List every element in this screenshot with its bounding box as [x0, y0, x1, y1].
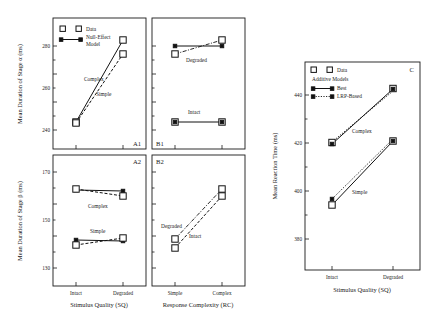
panel-b1-model-degraded-simple — [173, 44, 177, 48]
panel-a2-point-complex-intact — [73, 186, 79, 192]
panel-b2-label-intact: Intact — [189, 233, 202, 239]
panel-b1-degraded-data-line — [175, 40, 222, 54]
panel-a2-xtick-0: Intact — [70, 290, 82, 296]
panel-a2-model-complex-degraded — [121, 189, 125, 193]
panel-c-lrp-simple-intact — [330, 197, 334, 201]
panel-a1-legend: Data Null-Effect Model — [59, 26, 111, 47]
panel-a1-id: A1 — [133, 140, 141, 147]
panel-b1-frame — [152, 18, 245, 149]
panel-a1-label-simple: Simple — [96, 91, 112, 97]
panel-c-legend: Data Additive Models Best LRP-Based — [311, 67, 362, 99]
panel-b2-frame — [152, 155, 245, 286]
panel-c-legend-data-label: Data — [337, 67, 348, 73]
panel-b1-y-axis — [152, 46, 156, 130]
panel-c-legend-lrp-square-right-icon — [330, 95, 334, 99]
panel-b2-degraded-line — [175, 189, 222, 239]
panel-c-point-simple-intact — [329, 202, 335, 208]
panel-b2-y-axis — [152, 172, 156, 268]
panel-b1: Degraded Intact B1 — [152, 18, 245, 149]
panel-a2-simple-data-line — [76, 238, 123, 245]
panel-a2-xlabel: Stimulus Quality (SQ) — [70, 301, 128, 309]
panel-a1-legend-model-line1: Null-Effect — [86, 34, 111, 40]
panel-a2-point-complex-degraded — [120, 193, 126, 199]
panel-a1-point-simple-degraded — [120, 51, 126, 57]
panel-a1-legend-model-line2: Model — [86, 41, 101, 47]
panel-a2-point-simple-degraded — [120, 235, 126, 241]
panel-c-legend-open-square2-icon — [327, 67, 332, 72]
panel-a1-legend-data-label: Data — [86, 26, 97, 32]
panel-a1-simple-line — [76, 54, 123, 123]
panel-c-ylabel: Mean Reaction Time (ms) — [271, 133, 279, 200]
panel-a1-point-simple-intact — [73, 120, 79, 126]
panel-b1-model-intact-complex — [220, 120, 224, 124]
panel-a2-ytick-2: 130 — [42, 265, 50, 271]
panel-c-legend-group-label: Additive Models — [312, 76, 348, 82]
panel-c-best-simple-degraded — [391, 139, 395, 143]
panel-c-legend-lrp-square-left-icon — [311, 95, 315, 99]
panel-c-best-complex-degraded — [391, 87, 395, 91]
panel-c-xtick-1: Degraded — [383, 274, 404, 280]
legend-open-square2-icon — [76, 26, 81, 31]
panel-a2-ytick-0: 170 — [42, 169, 50, 175]
panel-b1-x-axis — [175, 145, 222, 149]
panel-c-legend-best-square-right-icon — [330, 87, 334, 91]
panel-a2-ytick-1: 150 — [42, 217, 50, 223]
panel-b1-point-degraded-complex — [219, 37, 225, 43]
panel-c-best-complex-intact — [330, 142, 334, 146]
panel-c-frame — [305, 62, 420, 270]
panel-a1-label-complex: Complex — [84, 76, 104, 82]
panel-c-id: C — [410, 66, 415, 73]
panel-a1-ytick-2: 240 — [42, 127, 50, 133]
panel-c-legend-best-square-left-icon — [311, 87, 315, 91]
panel-a2: 170 150 130 Intact Degraded Stimulus Qua… — [16, 155, 146, 309]
panel-a2-xtick-1: Degraded — [113, 290, 134, 296]
panel-b1-model-degraded-complex — [220, 44, 224, 48]
panel-c-ytick-1: 420 — [294, 140, 302, 146]
panel-a1-ytick-0: 280 — [42, 43, 50, 49]
panel-b2-point-degraded-complex — [219, 186, 225, 192]
panel-c-legend-lrp-label: LRP-Based — [337, 93, 362, 99]
panel-c-xtick-0: Intact — [326, 274, 338, 280]
panel-c-label-simple: Simple — [352, 189, 368, 195]
panel-b1-model-intact-simple — [173, 120, 177, 124]
panel-b2-point-intact-simple — [172, 245, 178, 251]
panel-b2-xlabel: Response Complexity (RC) — [163, 301, 234, 309]
panel-c-xlabel: Stimulus Quality (SQ) — [333, 286, 391, 294]
panel-c-ytick-3: 380 — [294, 236, 302, 242]
panel-b1-id: B1 — [156, 140, 164, 147]
panel-a1-ytick-1: 260 — [42, 85, 50, 91]
panel-a2-frame — [53, 155, 146, 286]
panel-a2-label-simple: Simple — [90, 228, 106, 234]
panel-b2-xtick-1: Complex — [212, 290, 231, 296]
panel-c-y-axis: 440 420 400 380 — [294, 92, 309, 242]
panel-a2-simple-model-line — [76, 240, 123, 241]
panel-a1-point-complex-degraded — [120, 37, 126, 43]
panel-c-legend-open-square-icon — [311, 67, 316, 72]
panel-b2-point-degraded-simple — [172, 236, 178, 242]
panel-b1-label-degraded: Degraded — [186, 57, 207, 63]
multi-panel-figure: 280 260 240 Mean Duration of Stage α (ms… — [0, 0, 436, 335]
panel-a2-ylabel: Mean Duration of Stage β (ms) — [16, 181, 24, 261]
panel-a1-y-axis: 280 260 240 — [42, 43, 57, 133]
panel-a1: 280 260 240 Mean Duration of Stage α (ms… — [16, 18, 146, 149]
panel-a1-ylabel: Mean Duration of Stage α (ms) — [16, 44, 24, 124]
panel-c-simple-best-line — [332, 141, 393, 205]
panel-c-label-complex: Complex — [352, 128, 372, 134]
legend-filled-square-left-icon — [59, 38, 63, 42]
panel-b2-label-degraded: Degraded — [161, 223, 182, 229]
panel-c: 440 420 400 380 Intact Degraded Stimulus… — [271, 62, 420, 294]
panel-c-ytick-0: 440 — [294, 92, 302, 98]
panel-a2-label-complex: Complex — [88, 203, 108, 209]
panel-b2-point-intact-complex — [219, 193, 225, 199]
panel-b1-point-degraded-simple — [172, 51, 178, 57]
panel-a2-model-simple-intact — [74, 238, 78, 242]
panel-a1-x-axis — [76, 145, 123, 149]
panel-a2-id: A2 — [133, 158, 141, 165]
panel-b2: Simple Complex Response Complexity (RC) … — [152, 155, 245, 309]
panel-a2-y-axis: 170 150 130 — [42, 169, 57, 271]
legend-open-square-icon — [60, 26, 65, 31]
legend-filled-square-right-icon — [79, 38, 83, 42]
panel-b2-id: B2 — [156, 158, 164, 165]
panel-c-legend-best-label: Best — [337, 85, 347, 91]
panel-c-ytick-2: 400 — [294, 188, 302, 194]
